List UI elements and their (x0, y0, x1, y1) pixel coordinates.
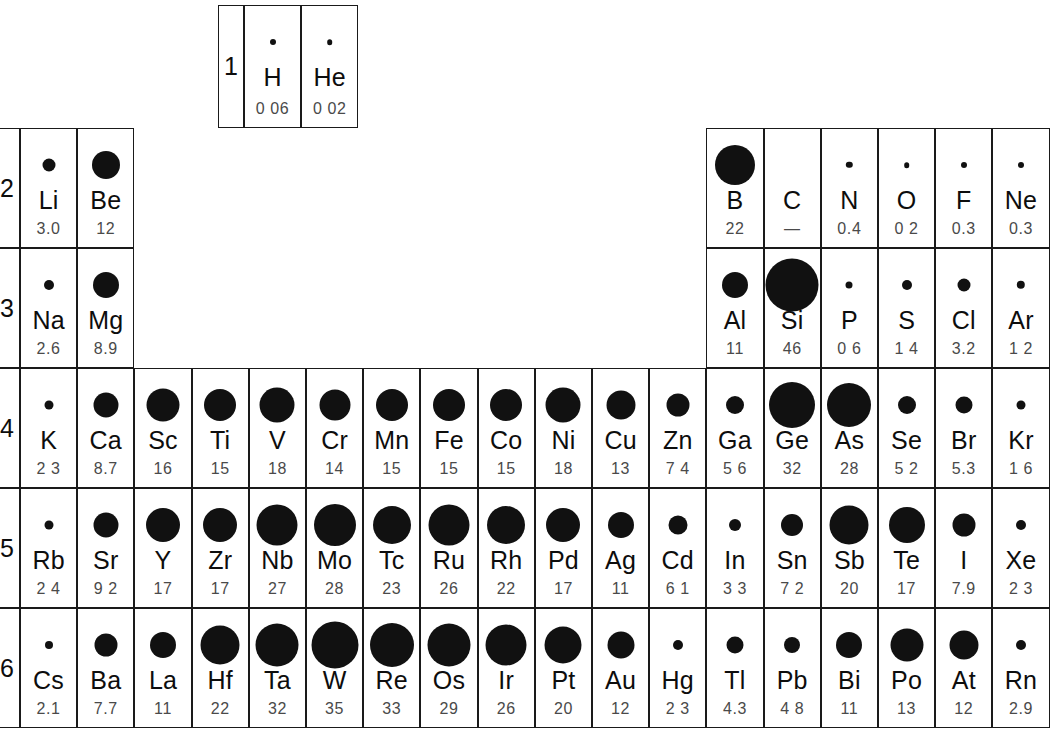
element-cell-si: Si46 (764, 248, 821, 368)
element-value: 7.9 (936, 580, 991, 598)
element-cell-mn: Mn15 (363, 368, 420, 488)
element-cell-ir: Ir26 (478, 608, 535, 728)
value-circle-ga (726, 396, 744, 414)
element-cell-hf: Hf22 (192, 608, 249, 728)
element-symbol: Ge (765, 425, 820, 455)
element-value: 20 (822, 580, 877, 598)
element-symbol: Mn (364, 425, 419, 455)
element-symbol: K (21, 425, 76, 455)
element-value: 1 4 (879, 340, 934, 358)
element-symbol: Po (879, 665, 934, 695)
value-circle-sb (830, 506, 869, 545)
element-symbol: P (822, 305, 877, 335)
value-circle-cl (957, 279, 970, 292)
element-cell-nb: Nb27 (249, 488, 306, 608)
element-value: 12 (593, 700, 648, 718)
value-circle-in (729, 519, 741, 531)
element-value: 26 (479, 700, 534, 718)
element-cell-ga: Ga5 6 (706, 368, 763, 488)
element-cell-at: At12 (935, 608, 992, 728)
element-symbol: At (936, 665, 991, 695)
element-symbol: As (822, 425, 877, 455)
element-value: 0 06 (245, 100, 300, 118)
element-value: 28 (822, 460, 877, 478)
element-value: 13 (879, 700, 934, 718)
element-cell-rh: Rh22 (478, 488, 535, 608)
value-circle-at (949, 631, 978, 660)
element-value: 29 (421, 700, 476, 718)
value-circle-zr (203, 508, 237, 542)
element-symbol: La (135, 665, 190, 695)
element-symbol: Ti (193, 425, 248, 455)
element-cell-tl: Tl4.3 (706, 608, 763, 728)
period-number-1: 1 (218, 5, 244, 128)
value-circle-mg (93, 272, 119, 298)
element-value: 15 (364, 460, 419, 478)
element-cell-hg: Hg2 3 (649, 608, 706, 728)
value-circle-se (898, 396, 916, 414)
value-circle-bi (836, 632, 862, 658)
value-circle-ge (769, 382, 815, 428)
element-value: 20 (536, 700, 591, 718)
value-circle-na (44, 280, 54, 290)
element-cell-ta: Ta32 (249, 608, 306, 728)
element-value: 4.3 (707, 700, 762, 718)
value-circle-tl (726, 637, 743, 654)
element-cell-b: B22 (706, 128, 763, 248)
element-value: 32 (765, 460, 820, 478)
element-value: 2 4 (21, 580, 76, 598)
element-value: 18 (536, 460, 591, 478)
element-cell-cs: Cs2.1 (20, 608, 77, 728)
element-value: 18 (250, 460, 305, 478)
element-cell-ti: Ti15 (192, 368, 249, 488)
element-cell-rb: Rb2 4 (20, 488, 77, 608)
element-value: 8.9 (78, 340, 133, 358)
element-cell-os: Os29 (420, 608, 477, 728)
value-circle-rb (44, 521, 53, 530)
element-symbol: Au (593, 665, 648, 695)
element-value: 6 1 (650, 580, 705, 598)
value-circle-sr (93, 513, 118, 538)
element-symbol: Ne (993, 185, 1048, 215)
element-value: 2.1 (21, 700, 76, 718)
element-symbol: Os (421, 665, 476, 695)
element-cell-la: La11 (134, 608, 191, 728)
element-cell-pt: Pt20 (535, 608, 592, 728)
value-circle-ba (94, 634, 117, 657)
element-cell-tc: Tc23 (363, 488, 420, 608)
value-circle-f (961, 162, 967, 168)
element-cell-pd: Pd17 (535, 488, 592, 608)
value-circle-si (766, 259, 819, 312)
element-symbol: Tl (707, 665, 762, 695)
element-value: 15 (193, 460, 248, 478)
element-cell-ru: Ru26 (420, 488, 477, 608)
element-symbol: Pb (765, 665, 820, 695)
element-value: 16 (135, 460, 190, 478)
element-cell-ni: Ni18 (535, 368, 592, 488)
element-cell-bi: Bi11 (821, 608, 878, 728)
element-value: 1 6 (993, 460, 1048, 478)
element-value: 46 (765, 340, 820, 358)
element-cell-cr: Cr14 (306, 368, 363, 488)
element-symbol: F (936, 185, 991, 215)
element-cell-li: Li3.0 (20, 128, 77, 248)
value-circle-ta (256, 624, 299, 667)
value-circle-ir (486, 625, 527, 666)
element-symbol: Mg (78, 305, 133, 335)
value-circle-ag (608, 512, 634, 538)
element-value: 15 (479, 460, 534, 478)
value-circle-hg (673, 640, 683, 650)
element-cell-ar: Ar1 2 (992, 248, 1049, 368)
element-value: 23 (364, 580, 419, 598)
element-cell-p: P0 6 (821, 248, 878, 368)
value-circle-mn (376, 389, 408, 421)
element-cell-h: H0 06 (244, 5, 301, 128)
period-number-4: 4 (0, 368, 20, 488)
value-circle-as (827, 383, 871, 427)
element-value: 22 (193, 700, 248, 718)
element-symbol: Tc (364, 545, 419, 575)
element-cell-cd: Cd6 1 (649, 488, 706, 608)
period-number-3: 3 (0, 248, 20, 368)
element-cell-rn: Rn2.9 (992, 608, 1049, 728)
element-cell-v: V18 (249, 368, 306, 488)
